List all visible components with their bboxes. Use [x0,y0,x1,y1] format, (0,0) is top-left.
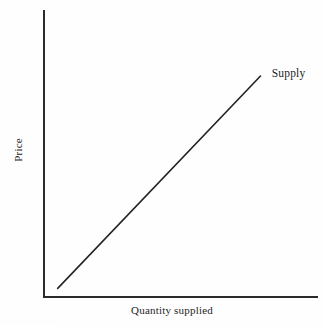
x-axis-label-text: Quantity supplied [131,304,213,316]
supply-curve-figure: Supply Quantity supplied Price · · · · ·… [0,0,324,326]
scan-bleed-artifact: · · · · · ·· · · ·· · [4,317,204,324]
y-axis-label: Price [12,138,24,162]
supply-curve-line [58,76,261,288]
supply-curve-label: Supply [272,67,306,79]
x-axis-label: Quantity supplied [0,304,324,316]
curve-layer [0,0,324,326]
